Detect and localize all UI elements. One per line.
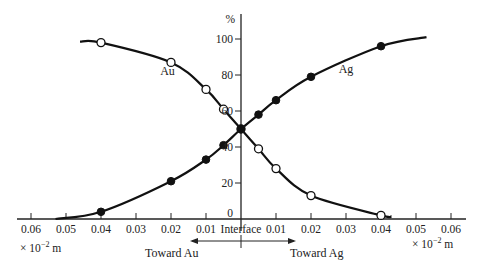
direction-label-ag: Toward Ag — [290, 246, 343, 260]
x-tick-label: 0.01 — [266, 223, 286, 235]
marker-ag — [377, 42, 385, 50]
x-tick-label: 0.02 — [301, 223, 321, 235]
series-label-au: Au — [160, 64, 175, 78]
marker-au — [97, 39, 105, 47]
x-tick-label: 0.01 — [196, 223, 216, 235]
x-tick-label: 0.06 — [21, 223, 41, 235]
marker-au — [202, 85, 210, 93]
x-tick-label: 0.06 — [441, 223, 461, 235]
x-tick-label: 0.03 — [126, 223, 146, 235]
y-tick-label: 100 — [216, 33, 234, 45]
y-tick-label: 60 — [222, 105, 234, 117]
marker-ag — [167, 177, 175, 185]
arrow-right-icon — [288, 238, 296, 244]
marker-ag — [237, 125, 245, 133]
interface-label: Interface — [221, 223, 262, 235]
marker-ag — [307, 73, 315, 81]
x-unit-label-right: × 10−2 m — [412, 236, 453, 250]
x-unit-label-left: × 10−2 m — [20, 240, 61, 254]
x-tick-label: 0.04 — [371, 223, 391, 235]
marker-ag — [255, 111, 263, 119]
y-axis-unit-label: % — [225, 13, 235, 25]
marker-ag — [272, 96, 280, 104]
y-tick-label: 40 — [222, 141, 234, 153]
x-tick-label: 0.03 — [336, 223, 356, 235]
marker-au — [307, 192, 315, 200]
x-tick-label: 0.02 — [161, 223, 181, 235]
marker-ag — [202, 156, 210, 164]
series-label-ag: Ag — [339, 62, 354, 76]
marker-au — [272, 165, 280, 173]
marker-ag — [97, 208, 105, 216]
marker-au — [255, 145, 263, 153]
x-tick-label: 0.04 — [91, 223, 111, 235]
concentration-profile-chart: 0.060.050.040.030.020.010.010.020.030.04… — [0, 0, 478, 269]
direction-label-au: Toward Au — [145, 246, 198, 260]
x-tick-label: 0.05 — [406, 223, 426, 235]
arrow-left-icon — [190, 238, 198, 244]
y-tick-label: 80 — [222, 69, 234, 81]
x-tick-label: 0.05 — [56, 223, 76, 235]
y-tick-label: 0 — [227, 207, 233, 219]
y-tick-label: 20 — [222, 177, 234, 189]
marker-au — [377, 211, 385, 219]
